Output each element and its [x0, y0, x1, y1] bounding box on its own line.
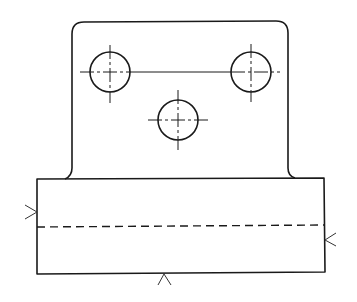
technical-drawing [0, 0, 357, 302]
view-arrow-bottom-icon [158, 274, 171, 285]
hole-top-right [231, 44, 280, 102]
view-arrow-right-icon [325, 233, 336, 246]
hole-center [148, 90, 210, 152]
hidden-line [37, 225, 324, 227]
view-arrow-left-icon [25, 205, 37, 219]
hole-top-left [80, 45, 130, 103]
